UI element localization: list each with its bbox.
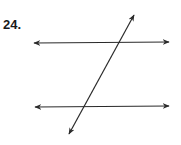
parallel-line-top [34,42,169,43]
diagram-canvas: 24. [0,0,181,145]
parallel-line-bottom [35,106,169,107]
parallel-lines-transversal-figure [0,0,181,145]
transversal-line [69,15,134,134]
